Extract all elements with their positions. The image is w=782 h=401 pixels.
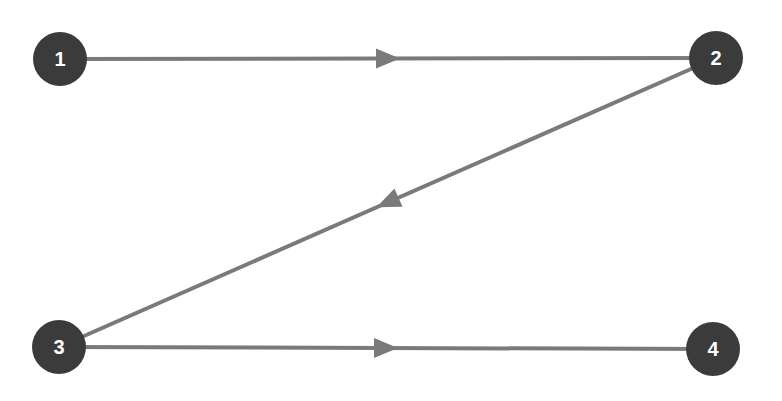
node-1[interactable]: 1 [33,32,87,86]
edge-1-to-2 [60,48,716,68]
edge-2-to-3 [59,58,716,347]
arrowhead-icon [374,338,398,358]
node-3[interactable]: 3 [32,320,86,374]
edges-layer [59,48,716,358]
directed-graph-diagram: 1234 [0,0,782,401]
edge-3-to-4 [59,338,713,358]
node-label: 4 [707,338,719,360]
node-4[interactable]: 4 [686,322,740,376]
node-2[interactable]: 2 [689,31,743,85]
arrowhead-icon [372,189,402,217]
node-label: 2 [710,47,721,69]
node-label: 3 [53,336,64,358]
node-label: 1 [54,48,65,70]
arrowhead-icon [376,48,400,68]
